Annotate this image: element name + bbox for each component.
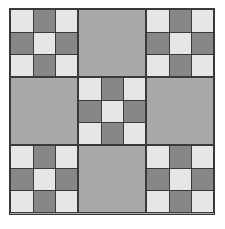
light-square [78,122,102,145]
light-square [123,77,146,101]
quilt-block [9,8,215,215]
dark-square [101,122,125,145]
nine-patch-block [10,9,78,77]
light-square [55,54,78,77]
dark-square [146,168,170,192]
dark-square [33,54,57,77]
light-square [55,9,78,33]
dark-square [191,168,214,192]
dark-square [169,190,193,213]
light-square [101,100,125,124]
solid-block [78,9,146,77]
light-square [191,145,214,169]
dark-square [169,54,193,77]
solid-block [10,77,78,145]
light-square [55,190,78,213]
dark-square [10,32,34,56]
light-square [146,9,170,33]
light-square [10,9,34,33]
light-square [191,54,214,77]
light-square [146,190,170,213]
light-square [10,54,34,77]
solid-block [78,145,146,213]
light-square [33,168,57,192]
dark-square [146,32,170,56]
nine-patch-block [78,77,146,145]
dark-square [33,145,57,169]
light-square [10,145,34,169]
light-square [123,122,146,145]
dark-square [78,100,102,124]
light-square [169,168,193,192]
light-square [169,32,193,56]
light-square [146,145,170,169]
dark-square [191,32,214,56]
light-square [191,190,214,213]
nine-patch-block [10,145,78,213]
light-square [10,190,34,213]
dark-square [10,168,34,192]
light-square [55,145,78,169]
solid-block [146,77,214,145]
nine-patch-block [146,9,214,77]
nine-patch-block [146,145,214,213]
light-square [78,77,102,101]
dark-square [169,9,193,33]
light-square [191,9,214,33]
dark-square [169,145,193,169]
dark-square [55,168,78,192]
dark-square [101,77,125,101]
dark-square [33,9,57,33]
light-square [146,54,170,77]
dark-square [123,100,146,124]
light-square [33,32,57,56]
dark-square [55,32,78,56]
dark-square [33,190,57,213]
